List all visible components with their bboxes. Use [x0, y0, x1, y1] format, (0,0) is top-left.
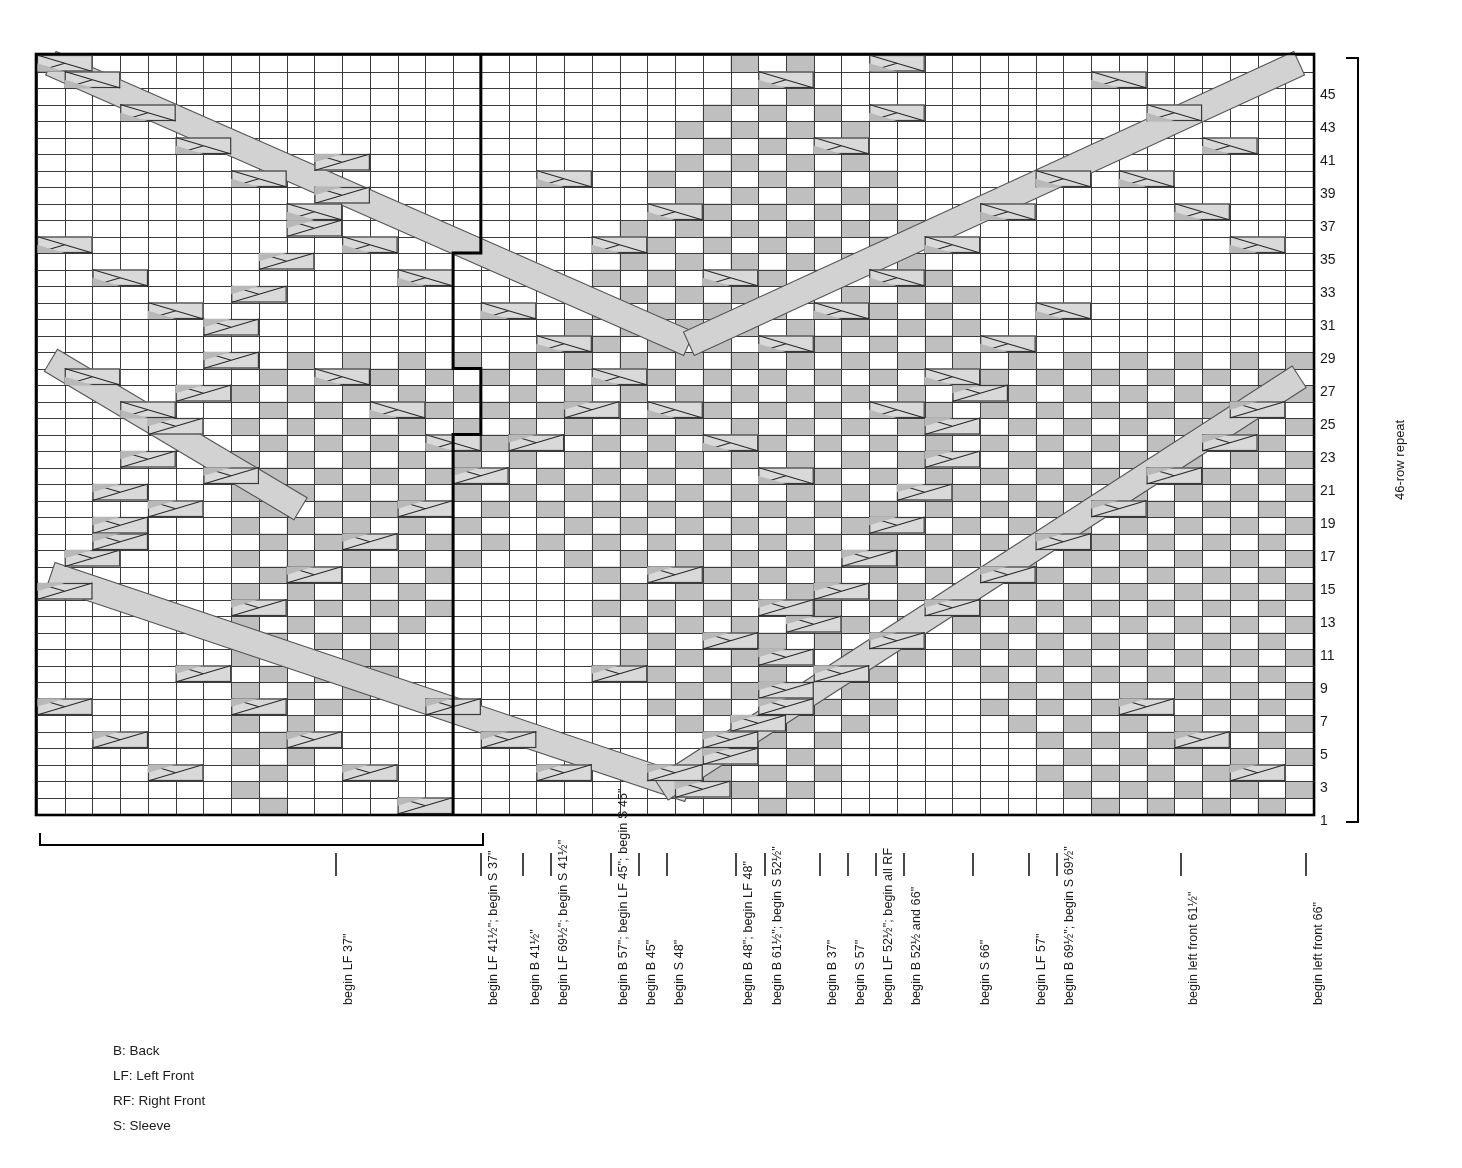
column-annotation-10: begin S 57"	[853, 940, 867, 1005]
column-annotation-7: begin B 48"; begin LF 48"	[741, 861, 755, 1005]
row-number: 45	[1320, 86, 1336, 102]
row-number: 27	[1320, 383, 1336, 399]
row-number: 19	[1320, 515, 1336, 531]
row-number: 11	[1320, 647, 1335, 663]
column-annotation-3: begin LF 69½"; begin S 41½"	[556, 840, 570, 1005]
column-annotation-11: begin LF 52½"; begin all RF	[881, 848, 895, 1005]
column-annotation-9: begin B 37"	[825, 940, 839, 1005]
column-annotation-6: begin S 48"	[672, 940, 686, 1005]
repeat-bracket-label: 46-row repeat	[1392, 420, 1407, 500]
row-number: 31	[1320, 317, 1336, 333]
row-number: 37	[1320, 218, 1336, 234]
column-annotation-5: begin B 45"	[644, 940, 658, 1005]
row-number: 33	[1320, 284, 1336, 300]
row-number: 15	[1320, 581, 1336, 597]
legend: B: Back LF: Left Front RF: Right Front S…	[113, 1038, 205, 1138]
legend-item-sleeve: S: Sleeve	[113, 1113, 205, 1138]
row-number: 35	[1320, 251, 1336, 267]
row-number: 3	[1320, 779, 1328, 795]
row-number: 9	[1320, 680, 1328, 696]
column-annotation-4: begin B 57"; begin LF 45"; begin S 45"	[616, 788, 630, 1005]
legend-item-left-front: LF: Left Front	[113, 1063, 205, 1088]
column-annotation-8: begin B 61½"; begin S 52½"	[770, 846, 784, 1005]
column-annotation-17: begin left front 66"	[1311, 902, 1325, 1005]
row-number: 39	[1320, 185, 1336, 201]
column-annotation-15: begin B 69½"; begin S 69½"	[1062, 846, 1076, 1005]
column-annotation-16: begin left front 61½"	[1186, 891, 1200, 1005]
legend-item-right-front: RF: Right Front	[113, 1088, 205, 1113]
column-annotation-0: begin LF 37"	[341, 933, 355, 1005]
knitting-chart-canvas	[0, 0, 1462, 1168]
column-annotation-13: begin S 66"	[978, 940, 992, 1005]
row-number: 1	[1320, 812, 1328, 828]
row-number: 7	[1320, 713, 1328, 729]
column-annotation-1: begin LF 41½"; begin S 37"	[486, 850, 500, 1005]
column-annotation-12: begin B 52½ and 66"	[909, 887, 923, 1005]
row-number: 41	[1320, 152, 1336, 168]
row-number: 25	[1320, 416, 1336, 432]
row-number: 17	[1320, 548, 1336, 564]
row-number: 21	[1320, 482, 1336, 498]
legend-item-back: B: Back	[113, 1038, 205, 1063]
column-annotation-14: begin LF 57"	[1034, 933, 1048, 1005]
row-number: 5	[1320, 746, 1328, 762]
row-number: 13	[1320, 614, 1336, 630]
row-number: 43	[1320, 119, 1336, 135]
row-number: 29	[1320, 350, 1336, 366]
row-number: 23	[1320, 449, 1336, 465]
column-annotation-2: begin B 41½"	[528, 929, 542, 1005]
